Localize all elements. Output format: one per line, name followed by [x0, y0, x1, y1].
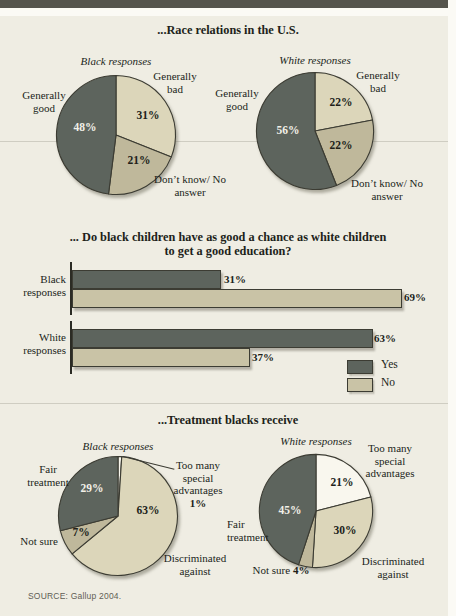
- pie-subtitle-white-responses-race: White responses: [254, 54, 376, 66]
- pie-label-generally-good: Generally good: [16, 89, 72, 114]
- pie-label-dont-know: Don’t know/ No answer: [349, 177, 425, 202]
- section-title-education-line1: ... Do black children have as good a cha…: [0, 231, 456, 245]
- bar-white-yes: [72, 329, 373, 348]
- pie-value-generally-good: 48%: [74, 121, 97, 133]
- section-title-race-relations: ...Race relations in the U.S.: [0, 24, 456, 38]
- pie-label-generally-bad: Generally bad: [146, 70, 204, 95]
- bar-category-white-responses: White responses: [4, 331, 66, 357]
- pie-subtitle-black-responses-treatment: Black responses: [56, 440, 180, 452]
- legend-swatch-yes: [347, 360, 373, 374]
- page-edge: [448, 0, 456, 616]
- legend-swatch-no: [347, 378, 373, 392]
- bar-black-no: [72, 289, 402, 308]
- pie-value-fair-treatment: 29%: [81, 482, 104, 494]
- legend-label-yes: Yes: [381, 358, 398, 370]
- bar-category-black-responses: Black responses: [4, 273, 66, 299]
- pie-value-not-sure: 4%: [293, 564, 310, 576]
- pie-label-discriminated: Discriminated against: [353, 555, 433, 580]
- pie-value-dont-know: 21%: [128, 154, 151, 166]
- pie-label-generally-good: Generally good: [208, 87, 266, 112]
- pie-label-special-advantages: Too many special advantages 1%: [167, 459, 229, 509]
- pie-value-discriminated: 30%: [334, 524, 357, 536]
- scan-artifact-line: [0, 403, 448, 404]
- bar-value-black-yes: 31%: [224, 273, 246, 285]
- section-title-treatment: ...Treatment blacks receive: [0, 414, 456, 428]
- pie-label-discriminated: Discriminated against: [156, 552, 234, 577]
- pie-value-dont-know: 22%: [330, 139, 353, 151]
- pie-label-special-advantages: Too many special advantages: [359, 442, 421, 480]
- pie-value-special-advantages: 1%: [167, 497, 229, 510]
- pie-value-special-advantages: 21%: [331, 476, 354, 488]
- section-title-education-line2: to get a good education?: [0, 245, 456, 259]
- bar-white-no: [72, 348, 250, 367]
- pie-label-special-advantages-text: Too many special advantages: [174, 459, 223, 496]
- bar-value-white-yes: 63%: [374, 332, 396, 344]
- legend-label-no: No: [381, 376, 395, 388]
- pie-label-fair-treatment: Fair treatment: [20, 463, 76, 488]
- pie-label-not-sure-text: Not sure: [253, 564, 291, 576]
- pie-value-fair-treatment: 45%: [279, 504, 302, 516]
- pie-chart-treatment-white-responses: 45% 21% 30%: [257, 452, 375, 570]
- source-note: SOURCE: Gallup 2004.: [28, 591, 121, 601]
- pie-label-generally-bad: Generally bad: [349, 69, 407, 94]
- pie-label-dont-know: Don’t know/ No answer: [152, 173, 228, 198]
- pie-value-not-sure: 7%: [72, 526, 89, 538]
- pie-subtitle-white-responses-treatment: White responses: [257, 435, 375, 447]
- bar-value-white-no: 37%: [252, 351, 274, 363]
- bar-black-yes: [72, 270, 221, 289]
- pie-value-generally-bad: 31%: [137, 109, 160, 121]
- pie-value-discriminated: 63%: [137, 504, 160, 516]
- pie-value-generally-good: 56%: [277, 124, 300, 136]
- bar-value-black-no: 69%: [404, 291, 426, 303]
- pie-label-not-sure: Not sure 4%: [243, 564, 319, 577]
- top-decoration-bar: [0, 0, 450, 8]
- pie-subtitle-black-responses-race: Black responses: [54, 55, 178, 67]
- pie-label-not-sure: Not sure: [10, 535, 68, 548]
- pie-label-fair-treatment: Fair treatment: [227, 518, 275, 543]
- pie-value-generally-bad: 22%: [330, 96, 353, 108]
